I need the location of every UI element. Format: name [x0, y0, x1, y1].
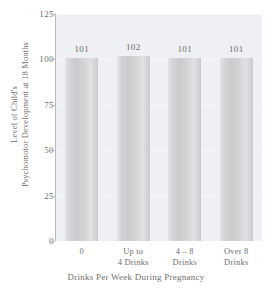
bar-value-label: 101: [57, 44, 107, 54]
y-tick-mark-75: [51, 105, 55, 106]
y-axis-title: Level of Child'sPsychomotor Development …: [9, 0, 30, 230]
y-axis-title-line-1: Level of Child's: [9, 0, 20, 230]
bar-value-label: 101: [211, 44, 261, 54]
y-tick-mark-25: [51, 196, 55, 197]
bar: [65, 58, 98, 241]
y-tick-mark-100: [51, 59, 55, 60]
bar-value-label: 102: [108, 42, 158, 52]
bar: [168, 58, 201, 241]
x-category-label-line-1: Over 8: [205, 246, 267, 257]
y-tick-mark-50: [51, 150, 55, 151]
bar-value-label: 101: [160, 44, 210, 54]
y-tick-mark-125: [51, 14, 55, 15]
x-category-label-line-2: Drinks: [205, 257, 267, 268]
y-tick-mark-0: [51, 241, 55, 242]
x-axis-title: Drinks Per Week During Pregnancy: [0, 272, 272, 282]
bar: [220, 58, 253, 241]
x-category-label: Over 8Drinks: [205, 246, 267, 267]
y-tick-label-0: 0: [14, 236, 54, 246]
y-axis-title-line-2: Psychomotor Development at 18 Months: [19, 0, 30, 230]
bar: [117, 56, 150, 241]
bar-chart: 0255075100125 Level of Child'sPsychomoto…: [0, 0, 272, 291]
